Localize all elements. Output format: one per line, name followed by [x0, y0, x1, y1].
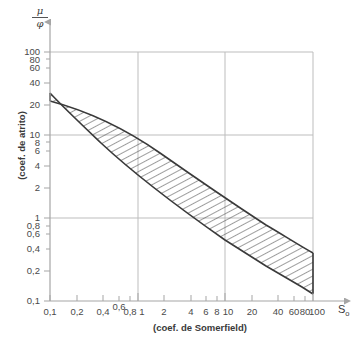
band-hatched-region: [50, 93, 313, 294]
plot-area: [0, 0, 363, 343]
data-band: [50, 93, 313, 294]
xtick-label-0.1: 0,1: [38, 306, 62, 317]
ytick-label-20: 20: [14, 99, 40, 110]
ytick-label-0.4: 0,4: [14, 243, 40, 254]
ytick-label-60: 60: [14, 62, 40, 73]
xtick-label-10: 10: [216, 306, 240, 317]
ytick-label-40: 40: [14, 77, 40, 88]
xtick-label-20: 20: [240, 306, 264, 317]
x-axis-ticks: [50, 293, 313, 301]
xtick-label-1: 1: [130, 306, 154, 317]
ytick-label-0.1: 0,1: [14, 295, 40, 306]
ytick-label-2: 2: [14, 182, 40, 193]
xtick-label-0.2: 0,2: [65, 306, 89, 317]
xtick-label-2: 2: [152, 306, 176, 317]
xtick-label-100: 100: [305, 306, 329, 317]
ytick-label-4: 4: [14, 160, 40, 171]
ytick-label-6: 6: [14, 145, 40, 156]
y-axis-ticks: [44, 52, 50, 301]
ytick-label-0.6: 0,6: [14, 228, 40, 239]
chart-root: μ φ (coef. de atrito) (coef. de Somerfie…: [0, 0, 363, 343]
ytick-label-0.2: 0,2: [14, 265, 40, 276]
